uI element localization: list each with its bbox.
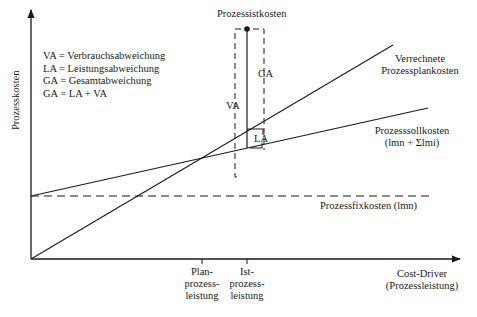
- verrechnete-label-line2: Prozessplankosten: [372, 65, 468, 77]
- plan-label-line3: leistung: [180, 290, 224, 302]
- istkosten-point: [244, 26, 250, 32]
- ist-label-line2: prozess-: [225, 278, 269, 290]
- verrechnete-label: Verrechnete Prozessplankosten: [372, 53, 468, 77]
- ga-bracket: [253, 29, 264, 150]
- sollkosten-label-line2: (lmn + Σlmi): [362, 137, 462, 149]
- sollkosten-line: [31, 108, 428, 196]
- legend-item-formula: GA = LA + VA: [43, 88, 165, 101]
- va-label: VA: [226, 100, 240, 112]
- ist-label-line1: Ist-: [225, 266, 269, 278]
- plan-label-line2: prozess-: [180, 278, 224, 290]
- ist-prozessleistung-label: Ist- prozess- leistung: [225, 266, 269, 302]
- sollkosten-label-line1: Prozesssollkosten: [362, 125, 462, 137]
- y-axis-label: Prozesskosten: [10, 71, 21, 131]
- x-axis-label: Cost-Driver (Prozessleistung): [372, 268, 472, 292]
- legend-item-ga: GA = Gesamtabweichung: [43, 75, 165, 88]
- cost-variance-diagram: Prozesskosten VA = Verbrauchsabweichung …: [0, 0, 477, 317]
- fixkosten-label: Prozessfixkosten (lmn): [320, 200, 417, 212]
- ga-label: GA: [258, 68, 273, 80]
- la-label: LA: [254, 133, 268, 145]
- x-axis-label-line2: (Prozessleistung): [372, 280, 472, 292]
- ist-label-line3: leistung: [225, 290, 269, 302]
- sollkosten-label: Prozesssollkosten (lmn + Σlmi): [362, 125, 462, 149]
- x-axis-label-line1: Cost-Driver: [372, 268, 472, 280]
- plan-prozessleistung-label: Plan- prozess- leistung: [180, 266, 224, 302]
- legend-item-la: LA = Leistungsabweichung: [43, 63, 165, 76]
- plan-label-line1: Plan-: [180, 266, 224, 278]
- istkosten-label: Prozessistkosten: [217, 8, 286, 20]
- legend-item-va: VA = Verbrauchsabweichung: [43, 50, 165, 63]
- verrechnete-label-line1: Verrechnete: [372, 53, 468, 65]
- legend: VA = Verbrauchsabweichung LA = Leistungs…: [43, 50, 165, 100]
